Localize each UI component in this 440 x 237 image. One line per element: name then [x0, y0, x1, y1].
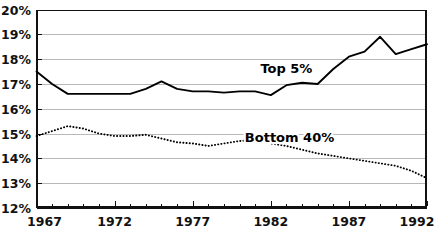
x-axis: 196719721977198219871992	[27, 201, 434, 230]
x-tick-label-1967: 1967	[27, 214, 62, 229]
series-label-0: Top 5%	[260, 61, 312, 76]
y-tick-label-18: 18%	[1, 52, 31, 67]
series-line-0	[37, 37, 428, 95]
x-tick-label-1987: 1987	[332, 214, 367, 229]
x-tick-label-1992: 1992	[400, 214, 435, 229]
x-tick-label-1977: 1977	[175, 214, 210, 229]
axis-lines	[37, 10, 428, 209]
y-tick-label-17: 17%	[1, 77, 31, 92]
y-tick-label-19: 19%	[1, 27, 31, 42]
line-chart: 12%13%14%15%16%17%18%19%20%1967197219771…	[0, 0, 440, 237]
y-tick-label-15: 15%	[1, 127, 31, 142]
series-line-1	[37, 126, 428, 178]
chart-canvas: 12%13%14%15%16%17%18%19%20%1967197219771…	[0, 0, 440, 237]
series-label-1: Bottom 40%	[245, 130, 334, 145]
x-tick-label-1982: 1982	[253, 214, 288, 229]
y-tick-label-20: 20%	[1, 3, 31, 18]
y-axis: 12%13%14%15%16%17%18%19%20%	[1, 3, 41, 216]
x-tick-label-1972: 1972	[97, 214, 132, 229]
series-group	[37, 37, 428, 178]
y-tick-label-14: 14%	[1, 151, 31, 166]
y-tick-label-16: 16%	[1, 102, 31, 117]
y-tick-label-13: 13%	[1, 176, 31, 191]
series-labels: Top 5%Top 5%Bottom 40%Bottom 40%	[245, 61, 334, 145]
